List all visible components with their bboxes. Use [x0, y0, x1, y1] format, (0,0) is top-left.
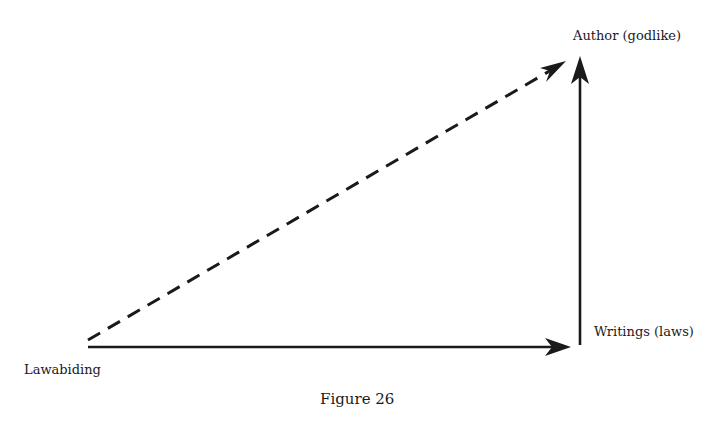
dashed-arrow-lawabiding-to-author	[88, 61, 566, 340]
node-label-right: Writings (laws)	[594, 324, 694, 339]
arrow-lawabiding-to-writings	[88, 338, 571, 356]
arrowhead-icon	[540, 61, 566, 82]
figure-caption: Figure 26	[320, 390, 394, 408]
node-label-origin: Lawabiding	[24, 362, 101, 377]
node-label-top: Author (godlike)	[573, 28, 681, 43]
diagram-canvas	[0, 0, 720, 435]
arrow-writings-to-author	[571, 56, 589, 345]
